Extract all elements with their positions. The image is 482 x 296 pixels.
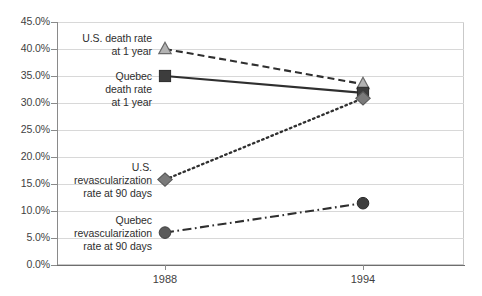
y-tick-label: 0.0%	[2, 258, 50, 270]
x-tick-mark-1994	[363, 265, 364, 270]
x-axis	[57, 265, 465, 266]
annotation-quebec-revascularization: Quebec revascularization rate at 90 days	[32, 214, 152, 253]
gridline-45	[57, 22, 464, 23]
gridline-20	[57, 157, 464, 158]
y-tick-45: 45.0%	[0, 15, 50, 29]
line-chart: 45.0% 40.0% 35.0% 30.0% 25.0% 20.0% 15.0…	[0, 0, 482, 296]
x-tick-1988: 1988	[125, 273, 205, 285]
y-tick-25: 25.0%	[0, 123, 50, 137]
y-tick-35: 35.0%	[0, 69, 50, 83]
y-tick-mark-40	[51, 49, 57, 50]
y-tick-0: 0.0%	[0, 258, 50, 272]
y-tick-40: 40.0%	[0, 42, 50, 56]
annotation-us-death-rate: U.S. death rate at 1 year	[62, 32, 152, 58]
y-tick-label: 45.0%	[2, 15, 50, 27]
y-tick-30: 30.0%	[0, 96, 50, 110]
y-tick-label: 40.0%	[2, 42, 50, 54]
y-tick-mark-30	[51, 103, 57, 104]
y-tick-mark-35	[51, 76, 57, 77]
gridline-25	[57, 130, 464, 131]
y-tick-mark-0	[51, 265, 57, 266]
y-tick-label: 30.0%	[2, 96, 50, 108]
y-tick-mark-45	[51, 22, 57, 23]
annotation-quebec-death-rate: Quebec death rate at 1 year	[62, 70, 152, 109]
x-tick-mark-1988	[165, 265, 166, 270]
y-tick-mark-25	[51, 130, 57, 131]
gridline-10	[57, 211, 464, 212]
x-tick-1994: 1994	[323, 273, 403, 285]
y-tick-label: 25.0%	[2, 123, 50, 135]
y-tick-label: 35.0%	[2, 69, 50, 81]
y-tick-mark-10	[51, 211, 57, 212]
annotation-us-revascularization: U.S. revascularization rate at 90 days	[32, 161, 152, 200]
y-tick-mark-20	[51, 157, 57, 158]
